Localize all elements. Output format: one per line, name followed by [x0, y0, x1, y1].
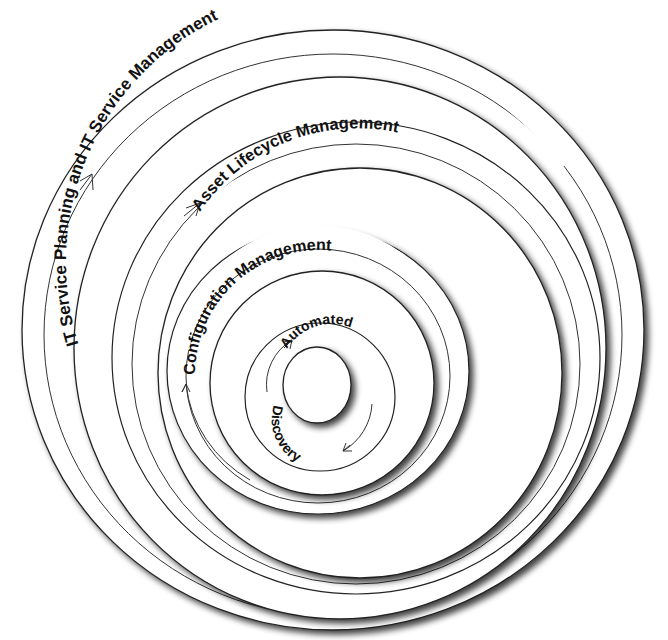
nested-rings-diagram: IT Service Planning and IT Service Manag… [0, 0, 668, 640]
ring-automated-discovery [245, 323, 395, 471]
ring-inner-edge [283, 347, 351, 423]
